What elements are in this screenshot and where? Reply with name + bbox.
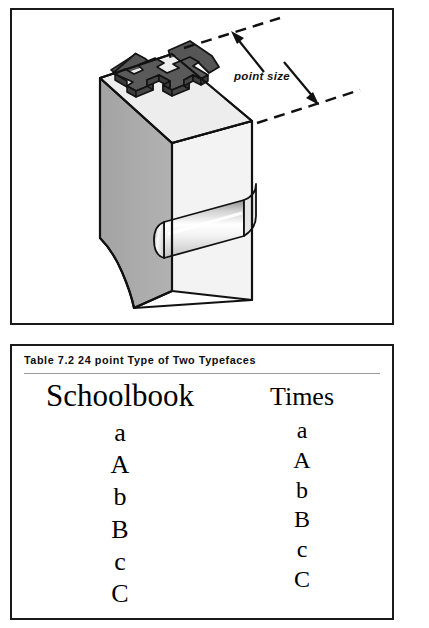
glyph-item: a	[227, 416, 377, 446]
glyph-list-times: a A b B c C	[227, 416, 377, 595]
type-block-illustration: point size	[12, 10, 392, 323]
glyph-list-schoolbook: a A b B c C	[20, 417, 220, 610]
lower-dashed-leader	[257, 90, 360, 123]
glyph-item: C	[227, 565, 377, 595]
column-schoolbook: Schoolbook a A b B c C	[20, 378, 220, 610]
column-heading-schoolbook: Schoolbook	[20, 380, 220, 411]
lower-arrow-head	[306, 92, 319, 105]
glyph-item: c	[20, 546, 220, 578]
typeface-comparison-table: Schoolbook a A b B c C Times a A b B c C	[12, 378, 392, 618]
glyph-item: A	[227, 446, 377, 476]
upper-arrow-shaft	[236, 37, 264, 72]
glyph-item: B	[227, 505, 377, 535]
glyph-item: B	[20, 514, 220, 546]
point-size-label: point size	[233, 70, 290, 82]
upper-arrow-head	[231, 31, 244, 44]
glyph-item: C	[20, 578, 220, 610]
glyph-item: b	[20, 481, 220, 513]
glyph-item: a	[20, 417, 220, 449]
glyph-item: b	[227, 476, 377, 506]
figure-panel: point size	[10, 8, 394, 325]
column-times: Times a A b B c C	[227, 378, 377, 595]
caption-divider	[24, 373, 380, 374]
glyph-item: A	[20, 449, 220, 481]
table-caption: Table 7.2 24 point Type of Two Typefaces	[24, 354, 256, 366]
table-panel: Table 7.2 24 point Type of Two Typefaces…	[10, 344, 394, 620]
glyph-item: c	[227, 535, 377, 565]
column-heading-times: Times	[227, 384, 377, 410]
